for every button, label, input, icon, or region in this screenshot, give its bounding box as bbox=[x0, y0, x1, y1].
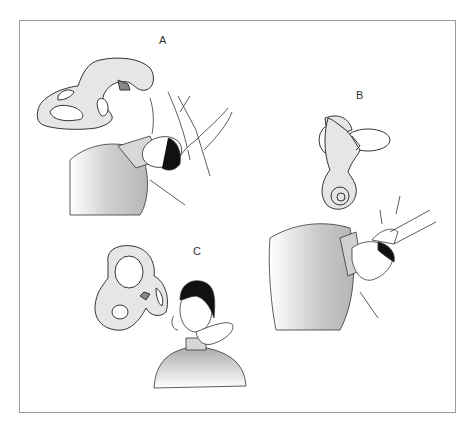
labyrinth-c bbox=[95, 246, 168, 331]
labyrinth-b bbox=[319, 116, 390, 209]
panel-a bbox=[37, 58, 232, 215]
patient-c bbox=[154, 281, 246, 388]
patient-a bbox=[70, 132, 185, 215]
panel-label-c: C bbox=[193, 245, 201, 257]
illustration bbox=[0, 0, 468, 426]
panel-label-a: A bbox=[159, 34, 166, 46]
patient-b bbox=[269, 196, 436, 330]
labyrinth-a bbox=[37, 58, 153, 129]
panel-b bbox=[269, 116, 436, 330]
panel-label-b: B bbox=[356, 89, 363, 101]
panel-c bbox=[95, 246, 246, 388]
